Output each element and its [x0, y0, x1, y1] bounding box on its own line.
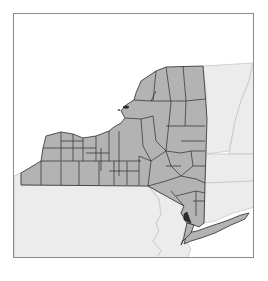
new-york-county-map — [14, 14, 254, 258]
map-frame — [13, 13, 254, 258]
massachusetts — [205, 154, 254, 183]
